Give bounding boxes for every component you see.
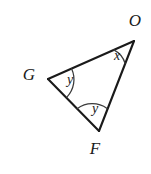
angle-label-y-at-f: y <box>90 101 99 116</box>
vertex-label-g: G <box>23 65 35 84</box>
geometry-figure: x y y O G F <box>0 0 151 174</box>
vertex-label-f: F <box>89 139 101 158</box>
angle-label-x-at-o: x <box>113 48 121 63</box>
angle-label-y-at-g: y <box>65 72 74 87</box>
vertex-label-o: O <box>129 11 141 30</box>
triangle-diagram-canvas: x y y O G F <box>0 0 151 174</box>
